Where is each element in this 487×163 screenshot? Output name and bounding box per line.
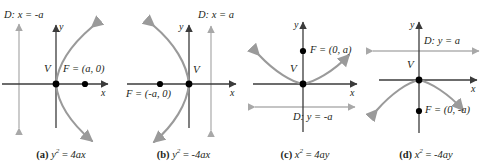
caption-eq-exp-a: 2 — [56, 147, 60, 155]
panel-c-graphic — [245, 0, 365, 163]
caption-c: (c) x2 = 4ay — [245, 147, 365, 160]
caption-d: (d) x2 = -4ay — [365, 147, 487, 160]
x-axis-label-c: x — [350, 88, 354, 98]
caption-tag-c: (c) — [281, 148, 293, 159]
caption-tag-a: (a) — [36, 148, 48, 159]
parabola-curve-c — [259, 55, 349, 84]
panel-d-graphic — [365, 0, 487, 163]
caption-eq-exp-d: 2 — [419, 147, 423, 155]
focus-label-a: F = (a, 0) — [63, 64, 105, 75]
y-axis-label-b: y — [179, 22, 183, 32]
panel-a-parabola-right: D: x = -a y x V F = (a, 0) (a) y2 = 4ax — [0, 0, 122, 163]
vertex-label-c: V — [290, 63, 297, 74]
focus-point-c — [300, 48, 306, 54]
y-axis-label-c: y — [294, 20, 298, 30]
focus-point-b — [157, 81, 163, 87]
y-axis-label-a: y — [59, 22, 63, 32]
caption-a: (a) y2 = 4ax — [0, 147, 122, 160]
vertex-label-d: V — [407, 59, 414, 70]
vertex-point-a — [53, 81, 60, 88]
vertex-point-b — [186, 81, 193, 88]
caption-b: (b) y2 = -4ax — [122, 147, 245, 160]
panel-c-parabola-up: y x V F = (0, a) D: y = -a (c) x2 = 4ay — [245, 0, 365, 163]
vertex-point-d — [416, 77, 423, 84]
vertex-label-a: V — [44, 63, 51, 74]
directrix-label-c: D: y = -a — [293, 112, 332, 123]
y-axis-label-d: y — [410, 20, 414, 30]
x-axis-label-a: x — [101, 88, 105, 98]
focus-label-d: F = (0, -a) — [425, 105, 470, 116]
panel-b-graphic — [122, 0, 245, 163]
x-axis-label-d: x — [471, 84, 475, 94]
focus-point-a — [82, 81, 88, 87]
parabola-figure: D: x = -a y x V F = (a, 0) (a) y2 = 4ax — [0, 0, 487, 163]
directrix-label-a: D: x = -a — [4, 10, 43, 21]
caption-eq-rhs-b: -4ax — [192, 148, 211, 159]
focus-point-d — [416, 108, 422, 114]
panel-d-parabola-down: y x V D: y = a F = (0, -a) (d) x2 = -4ay — [365, 0, 487, 163]
caption-tag-d: (d) — [399, 148, 412, 159]
caption-eq-rhs-d: -4ay — [434, 148, 453, 159]
caption-tag-b: (b) — [157, 148, 170, 159]
vertex-point-c — [300, 81, 307, 88]
directrix-label-d: D: y = a — [424, 36, 460, 47]
x-axis-label-b: x — [230, 88, 234, 98]
focus-label-b: F = (-a, 0) — [126, 89, 171, 100]
caption-eq-rhs-a: 4ax — [71, 148, 86, 159]
caption-eq-exp-c: 2 — [300, 147, 304, 155]
panel-b-parabola-left: D: x = a y x V F = (-a, 0) (b) y2 = -4ax — [122, 0, 245, 163]
vertex-label-b: V — [193, 64, 200, 75]
directrix-label-b: D: x = a — [198, 10, 234, 21]
focus-label-c: F = (0, a) — [310, 45, 352, 56]
caption-eq-exp-b: 2 — [177, 147, 181, 155]
caption-eq-rhs-c: 4ay — [314, 148, 329, 159]
